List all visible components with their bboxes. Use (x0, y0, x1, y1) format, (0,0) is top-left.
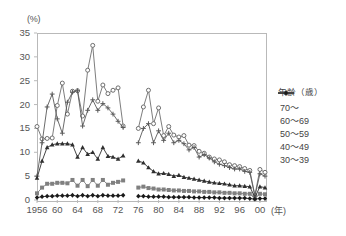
series-40-49 (35, 178, 267, 201)
diamond-marker-icon (278, 88, 294, 98)
series-70- (35, 43, 267, 197)
legend-item-label: 30～39 (280, 156, 309, 165)
legend-item-1: 70～ (278, 102, 323, 115)
legend-item-label: 70～ (280, 104, 299, 113)
legend-item-5: 30～39 (278, 154, 323, 167)
series-30-39 (35, 193, 267, 202)
x-axis-unit-label: (年) (271, 204, 286, 217)
series-50-59 (35, 141, 268, 199)
legend-item-label: 40～49 (280, 143, 309, 152)
legend-item-label: 60～69 (280, 117, 309, 126)
legend-item-2: 60～69 (278, 115, 323, 128)
legend-item-4: 40～49 (278, 141, 323, 154)
legend-item-3: 50～59 (278, 128, 323, 141)
chart-figure: (%) 05101520253035 195660646872768084889… (0, 0, 346, 236)
legend: 年齢（歳） 70～60～6950～5940～4930～39 (278, 88, 323, 167)
legend-item-label: 50～59 (280, 130, 309, 139)
